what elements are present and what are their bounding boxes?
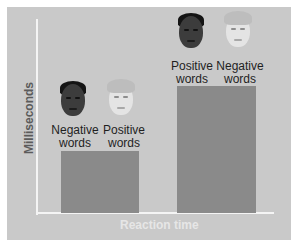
bar1-right-label-line2: words: [94, 137, 154, 150]
bar2-right-label: Negative words: [210, 60, 270, 86]
bar-congruent: [61, 151, 139, 213]
bar1-right-label: Positive words: [94, 124, 154, 150]
y-axis-line: [36, 19, 38, 215]
white-male-face-icon: [106, 79, 136, 119]
black-male-face-icon: [58, 80, 88, 120]
black-male-face-icon: [176, 12, 206, 52]
y-axis-label: Milliseconds: [22, 82, 36, 154]
bar2-right-label-line2: words: [210, 73, 270, 86]
white-male-face-icon: [223, 11, 253, 51]
bar-incongruent: [177, 86, 256, 213]
x-axis-label: Reaction time: [120, 218, 199, 232]
